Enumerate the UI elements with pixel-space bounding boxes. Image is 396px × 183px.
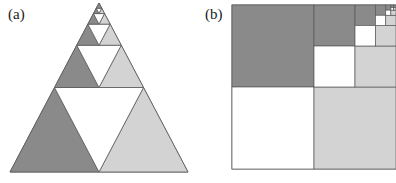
triangle-leaf <box>96 3 102 8</box>
recursive-square-figure <box>198 0 396 183</box>
square-white <box>391 8 394 11</box>
square-dark <box>386 5 391 10</box>
square-dark <box>355 5 376 26</box>
square-white <box>232 87 314 169</box>
square-white <box>376 15 386 25</box>
square-white <box>314 46 355 87</box>
square-white <box>386 10 391 15</box>
panel-a: (a) <box>0 0 198 183</box>
square-dark <box>232 5 314 87</box>
square-dark <box>376 5 386 15</box>
square-light <box>386 15 396 25</box>
sierpinski-triangle-figure <box>0 0 198 183</box>
square-dark <box>391 5 394 8</box>
square-white <box>355 26 376 47</box>
figure-container: (a) (b) <box>0 0 396 183</box>
square-light <box>355 46 396 87</box>
panel-b: (b) <box>198 0 396 183</box>
square-light <box>391 10 396 15</box>
square-light <box>376 26 396 47</box>
square-light <box>314 87 396 169</box>
square-dark <box>314 5 355 46</box>
